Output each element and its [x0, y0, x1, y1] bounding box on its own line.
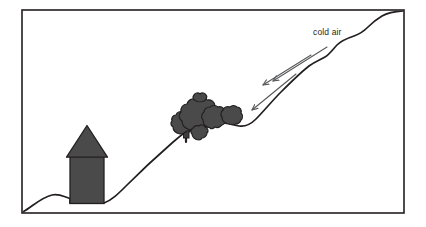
- diagram-canvas: cold air: [0, 0, 426, 227]
- tree-crown-6: [193, 93, 207, 102]
- house-body: [70, 157, 104, 204]
- landscape-diagram: cold air: [0, 0, 426, 227]
- tree-crown-4: [221, 106, 243, 125]
- cold-air-label: cold air: [313, 27, 342, 37]
